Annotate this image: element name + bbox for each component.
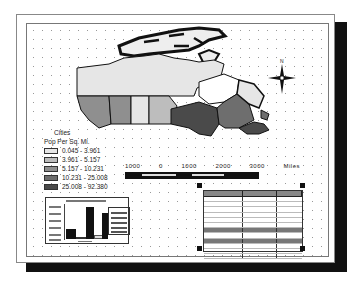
legend-class: 25.008 - 92.380 bbox=[44, 182, 108, 191]
scale-label: 1000 bbox=[181, 163, 196, 169]
canada-map[interactable] bbox=[49, 24, 274, 142]
legend-class: 3.961 - 5.157 bbox=[44, 155, 108, 164]
legend-swatch bbox=[44, 184, 58, 190]
chart-bar bbox=[66, 229, 76, 239]
legend-swatch bbox=[44, 148, 58, 154]
chart-bar bbox=[86, 207, 94, 239]
scale-label: 1000 bbox=[125, 163, 140, 169]
compass-star-icon bbox=[262, 60, 302, 96]
legend-title: Cities bbox=[44, 128, 108, 137]
legend-class: 0.045 - 3.961 bbox=[44, 146, 108, 155]
chart-legend bbox=[108, 207, 130, 235]
chart-x-label bbox=[78, 241, 92, 243]
legend-class: 5.157 - 10.231 bbox=[44, 164, 108, 173]
compass-rose[interactable]: N bbox=[262, 60, 302, 96]
scale-label: 3000 bbox=[249, 163, 264, 169]
selection-handle-tl[interactable] bbox=[197, 183, 202, 188]
scale-label: 0 bbox=[159, 163, 163, 169]
legend-swatch bbox=[44, 166, 58, 172]
province-ontario bbox=[171, 102, 219, 136]
scale-bar-graphic bbox=[125, 172, 259, 179]
attribute-table[interactable] bbox=[203, 190, 303, 252]
province-alberta bbox=[109, 96, 131, 124]
scale-units: Miles bbox=[283, 163, 300, 169]
province-saskatchewan bbox=[131, 96, 149, 124]
north-label: N bbox=[280, 58, 284, 64]
legend-swatch bbox=[44, 175, 58, 181]
selection-handle-bl[interactable] bbox=[197, 246, 202, 251]
legend-class: 10.231 - 25.008 bbox=[44, 173, 108, 182]
table-row bbox=[204, 254, 302, 259]
chart-title bbox=[66, 200, 106, 202]
legend-subtitle: Pop Per Sq. Mi. bbox=[44, 137, 108, 146]
scale-label: 2000 bbox=[215, 163, 230, 169]
legend-swatch bbox=[44, 157, 58, 163]
scale-bar[interactable]: 1000 0 1000 2000 3000 Miles bbox=[125, 163, 300, 179]
selection-handle-tr[interactable] bbox=[300, 183, 305, 188]
province-bc bbox=[77, 96, 111, 128]
chart-y-axis bbox=[64, 204, 65, 240]
map-legend[interactable]: Cities Pop Per Sq. Mi. 0.045 - 3.961 3.9… bbox=[44, 128, 108, 191]
bar-chart[interactable] bbox=[45, 197, 129, 244]
selection-handle-br[interactable] bbox=[300, 246, 305, 251]
chart-bar bbox=[76, 237, 86, 239]
